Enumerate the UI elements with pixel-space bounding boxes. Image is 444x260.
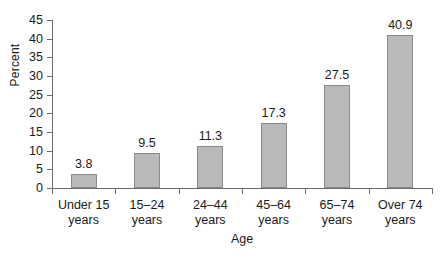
bar-chart: Percent 051015202530354045 3.89.511.317.…	[0, 0, 444, 260]
y-tick-label: 0	[17, 181, 43, 195]
x-tick	[242, 188, 243, 194]
x-category-label: 65–74years	[306, 198, 368, 228]
y-tick-label: 15	[17, 125, 43, 139]
x-category-label: 24–44years	[179, 198, 241, 228]
x-category-label-line1: Over 74	[378, 198, 422, 212]
y-tick	[47, 95, 52, 96]
x-category-label: Under 15years	[53, 198, 115, 228]
plot-area: 051015202530354045 3.89.511.317.327.540.…	[52, 20, 432, 188]
x-category-label-line2: years	[179, 213, 241, 228]
x-category-label: 15–24years	[116, 198, 178, 228]
bar-value-label: 27.5	[325, 68, 349, 82]
bar: 17.3	[261, 123, 287, 188]
x-category-label-line2: years	[243, 213, 305, 228]
bar: 11.3	[197, 146, 223, 188]
bar-value-label: 17.3	[261, 106, 285, 120]
x-tick	[52, 188, 53, 194]
y-tick	[47, 39, 52, 40]
x-category-label-line1: Under 15	[58, 198, 109, 212]
y-tick-label: 40	[17, 32, 43, 46]
bar-value-label: 3.8	[75, 157, 92, 171]
x-category-label-line1: 65–74	[320, 198, 355, 212]
x-category-label-line1: 24–44	[193, 198, 228, 212]
y-tick	[47, 76, 52, 77]
y-tick	[47, 20, 52, 21]
y-tick	[47, 169, 52, 170]
x-axis-title: Age	[52, 232, 432, 246]
x-category-label-line1: 45–64	[256, 198, 291, 212]
y-tick-label: 5	[17, 162, 43, 176]
y-tick	[47, 113, 52, 114]
x-tick	[305, 188, 306, 194]
y-axis-line	[52, 20, 53, 188]
y-tick-label: 20	[17, 106, 43, 120]
y-tick-label: 35	[17, 50, 43, 64]
bar: 9.5	[134, 153, 160, 188]
x-category-label: 45–64years	[243, 198, 305, 228]
x-tick	[115, 188, 116, 194]
bar: 40.9	[387, 35, 413, 188]
x-category-label-line2: years	[369, 213, 431, 228]
y-tick-label: 10	[17, 144, 43, 158]
x-tick	[432, 188, 433, 194]
bar-value-label: 40.9	[388, 18, 412, 32]
bar: 27.5	[324, 85, 350, 188]
y-tick	[47, 151, 52, 152]
bar: 3.8	[71, 174, 97, 188]
y-tick-label: 45	[17, 13, 43, 27]
y-tick-label: 25	[17, 88, 43, 102]
x-category-label: Over 74years	[369, 198, 431, 228]
x-category-label-line2: years	[306, 213, 368, 228]
x-tick	[179, 188, 180, 194]
bar-value-label: 9.5	[138, 136, 155, 150]
x-category-label-line2: years	[116, 213, 178, 228]
y-tick	[47, 132, 52, 133]
x-category-label-line1: 15–24	[130, 198, 165, 212]
x-tick	[369, 188, 370, 194]
x-category-label-line2: years	[53, 213, 115, 228]
bar-value-label: 11.3	[199, 129, 222, 143]
y-tick	[47, 57, 52, 58]
y-tick-label: 30	[17, 69, 43, 83]
